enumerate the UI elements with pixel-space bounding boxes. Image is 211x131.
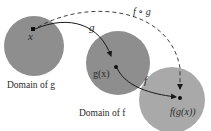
diagram-svg: x g f ∘ g g(x) f f(g(x)) Domain of g Dom… — [0, 0, 211, 131]
codomain-region — [139, 67, 205, 131]
domain-f-region — [86, 31, 150, 95]
domain-g-region — [4, 16, 64, 76]
label-domain-f: Domain of f — [79, 108, 126, 118]
composition-diagram: x g f ∘ g g(x) f f(g(x)) Domain of g Dom… — [0, 0, 211, 131]
label-gx: g(x) — [93, 68, 110, 80]
label-fgx: f(g(x)) — [170, 106, 196, 118]
label-domain-g: Domain of g — [7, 80, 55, 90]
point-gx — [114, 65, 118, 69]
label-arrow-f-compose-g: f ∘ g — [133, 6, 151, 17]
label-x: x — [27, 30, 33, 42]
point-fgx — [178, 96, 182, 100]
label-arrow-g: g — [89, 21, 95, 33]
